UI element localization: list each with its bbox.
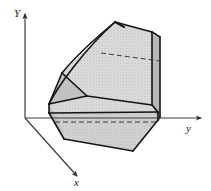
isometric-drawing: Yyx [0,0,211,191]
depth-axis-label: x [73,176,79,188]
solid-edge-3 [49,112,158,113]
vertical-axis-label: Y [14,7,22,19]
horizontal-axis-label: y [185,122,191,134]
solid-body [49,22,160,151]
figure-container: Yyx [0,0,211,191]
